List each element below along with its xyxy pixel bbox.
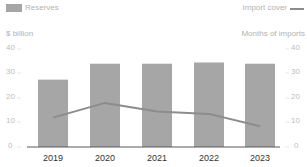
reserves-bar-2019 <box>38 80 68 147</box>
x-label-2021: 2021 <box>137 153 177 163</box>
reserves-bar-2022 <box>194 62 224 147</box>
x-label-2023: 2023 <box>240 153 280 163</box>
reserves-bar-2023 <box>245 64 275 147</box>
x-label-2022: 2022 <box>189 153 229 163</box>
reserves-bar-2021 <box>142 64 172 147</box>
reserves-bars <box>38 62 275 147</box>
x-label-2019: 2019 <box>33 153 73 163</box>
chart-plot-area <box>0 0 307 167</box>
x-label-2020: 2020 <box>85 153 125 163</box>
